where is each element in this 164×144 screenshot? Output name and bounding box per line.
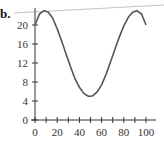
sinusoid-chart: b. 048121620 020406080100 — [0, 0, 164, 144]
x-tick-label: 100 — [138, 126, 155, 138]
y-tick-label: 16 — [17, 38, 29, 50]
y-tick-label: 12 — [17, 57, 28, 69]
y-tick-label: 8 — [23, 76, 29, 88]
overlay-line — [14, 5, 164, 13]
y-tick-label: 0 — [23, 114, 29, 126]
panel-label: b. — [0, 6, 10, 21]
x-tick-label: 40 — [74, 126, 86, 138]
x-tick-label: 60 — [96, 126, 108, 138]
x-tick-label: 80 — [118, 126, 130, 138]
x-tick-label: 20 — [52, 126, 64, 138]
y-tick-label: 4 — [23, 95, 29, 107]
y-tick-label: 20 — [17, 19, 29, 31]
x-tick-label: 0 — [32, 126, 38, 138]
axes — [31, 8, 156, 120]
data-curve — [35, 11, 146, 97]
